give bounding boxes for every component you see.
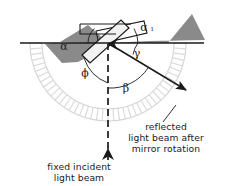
reflected-caption-leader [163, 105, 176, 122]
protractor-tick [113, 109, 114, 121]
label-alpha-left: α [60, 40, 68, 53]
protractor-tick [96, 108, 98, 120]
protractor-tick [173, 53, 185, 55]
protractor-tick [64, 98, 71, 108]
protractor-tick [38, 72, 49, 77]
protractor-tick [172, 58, 184, 61]
protractor-tick [123, 107, 126, 119]
protractor-tick [156, 88, 165, 96]
protractor-tick [33, 62, 44, 66]
mirror-rotation-diagram: α α ı ϕ β γ fixed incident light beam re… [0, 0, 228, 186]
protractor-tick [35, 67, 46, 71]
protractor-tick [132, 104, 136, 115]
incident-caption-line2: light beam [54, 172, 104, 183]
protractor-tick [174, 48, 186, 49]
protractor-tick [171, 62, 182, 66]
diagram-canvas: α α ı ϕ β γ fixed incident light beam re… [0, 0, 228, 186]
protractor-tick [102, 109, 103, 121]
protractor-tick [69, 100, 75, 110]
protractor-tick [44, 80, 54, 87]
protractor-tick [51, 88, 60, 96]
protractor-tick [153, 91, 161, 100]
protractor-tick [169, 67, 180, 71]
reflected-beam-line [108, 43, 186, 90]
protractor-tick [149, 95, 156, 104]
label-beta: β [123, 82, 129, 95]
reflected-caption: reflected light beam after mirror rotati… [128, 121, 204, 154]
protractor-tick [145, 98, 152, 108]
protractor-tick [141, 100, 147, 110]
incident-caption: fixed incident light beam [47, 161, 111, 183]
label-phi: ϕ [81, 67, 89, 80]
label-alpha-right-sub: ı [151, 25, 154, 33]
protractor-tick [91, 107, 94, 119]
protractor-tick [55, 91, 63, 100]
protractor-tick [47, 84, 56, 91]
protractor-tick [80, 104, 84, 115]
protractor-tick [74, 102, 79, 113]
label-alpha-right: α [140, 21, 148, 34]
protractor-tick [167, 72, 178, 77]
reflected-caption-line2: light beam after [128, 132, 204, 143]
protractor-tick [85, 106, 89, 117]
protractor-tick [30, 48, 42, 49]
protractor-tick [118, 108, 120, 120]
protractor-tick [160, 84, 169, 91]
incident-caption-line1: fixed incident [47, 161, 111, 172]
reflected-caption-line3: mirror rotation [132, 143, 201, 154]
protractor-tick [127, 106, 131, 117]
protractor-tick [40, 76, 50, 82]
label-gamma: γ [134, 47, 141, 60]
protractor-tick [31, 53, 43, 55]
protractor-tick [137, 102, 142, 113]
protractor-tick [32, 58, 44, 61]
reflected-caption-line1: reflected [145, 121, 187, 132]
protractor-tick [59, 95, 66, 104]
